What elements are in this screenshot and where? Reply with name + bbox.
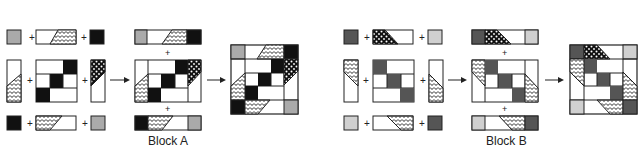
block-a-parts: + + + + +	[7, 30, 105, 130]
svg-text:+: +	[81, 32, 87, 43]
svg-text:+: +	[82, 75, 88, 86]
svg-text:+: +	[420, 75, 426, 86]
svg-text:+: +	[27, 118, 33, 129]
block-a-joined: + +	[135, 30, 201, 130]
svg-text:+: +	[29, 32, 35, 43]
arrow-icon	[110, 77, 130, 83]
svg-text:+: +	[502, 48, 507, 58]
block-a-label: Block A	[148, 134, 188, 148]
svg-text:+: +	[165, 48, 170, 58]
block-a-finished	[231, 45, 298, 114]
svg-text:+: +	[27, 75, 33, 86]
svg-text:+: +	[419, 32, 425, 43]
block-b-finished	[570, 45, 637, 114]
svg-text:+: +	[165, 104, 170, 114]
svg-text:+: +	[419, 118, 425, 129]
svg-text:+: +	[364, 32, 370, 43]
arrow-icon	[448, 77, 467, 83]
arrow-icon	[207, 77, 226, 83]
arrow-icon	[545, 77, 564, 83]
svg-text:+: +	[82, 118, 88, 129]
block-b-joined: + +	[472, 30, 538, 130]
svg-text:+: +	[502, 104, 507, 114]
svg-text:+: +	[364, 118, 370, 129]
quilt-diagram: + + + + +	[0, 0, 638, 149]
block-b-label: Block B	[486, 134, 527, 148]
svg-text:+: +	[363, 75, 369, 86]
block-b-parts: + + + + +	[344, 30, 443, 130]
